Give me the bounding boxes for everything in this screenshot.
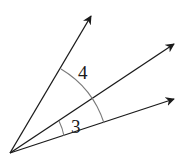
ray-bottom xyxy=(10,99,174,153)
angle-3-arc xyxy=(59,121,64,136)
angle-3-label: 3 xyxy=(71,116,81,137)
angle-4-label: 4 xyxy=(78,62,88,83)
angle-diagram: 4 3 xyxy=(0,0,188,161)
